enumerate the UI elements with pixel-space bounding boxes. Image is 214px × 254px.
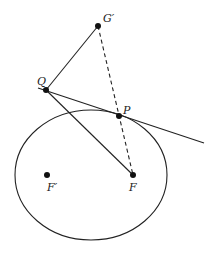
segment-gprime-f-dashed xyxy=(98,26,133,175)
segment-q-f xyxy=(46,90,133,175)
label-q: Q xyxy=(37,75,46,88)
point-p xyxy=(116,113,122,119)
label-f-prime: F′ xyxy=(46,181,58,194)
segment-q-gprime xyxy=(46,26,98,90)
label-f: F xyxy=(128,181,137,194)
label-g-prime: G′ xyxy=(103,12,115,25)
ellipse-reflection-diagram: G′ Q P F F′ xyxy=(0,0,214,254)
label-p: P xyxy=(122,104,131,117)
ellipse xyxy=(15,110,167,240)
point-f xyxy=(130,172,136,178)
point-f-prime xyxy=(44,172,50,178)
point-g-prime xyxy=(95,23,101,29)
